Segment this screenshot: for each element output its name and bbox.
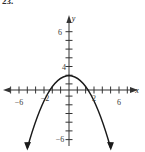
x-axis-group [3, 87, 138, 93]
y-axis-group [66, 15, 71, 146]
x-tick-label-2: 2 [92, 94, 96, 103]
x-tick-label-6: 6 [117, 98, 121, 107]
parabola-plot: x y −6 −2 2 6 6 4 −6 [0, 0, 145, 152]
x-axis-label: x [134, 86, 139, 95]
x-tick-label-neg6: −6 [15, 98, 24, 107]
curve-arrow-left [24, 142, 31, 151]
y-tick-label-6: 6 [58, 28, 62, 37]
curve-arrow-right [107, 142, 114, 151]
figure-container: 23. [0, 0, 145, 152]
y-tick-label-4: 4 [62, 63, 66, 72]
x-axis-arrow-left [3, 87, 10, 92]
y-tick-label-neg6: −6 [56, 135, 65, 144]
x-tick-label-neg2: −2 [41, 94, 50, 103]
y-axis-label: y [71, 14, 76, 23]
